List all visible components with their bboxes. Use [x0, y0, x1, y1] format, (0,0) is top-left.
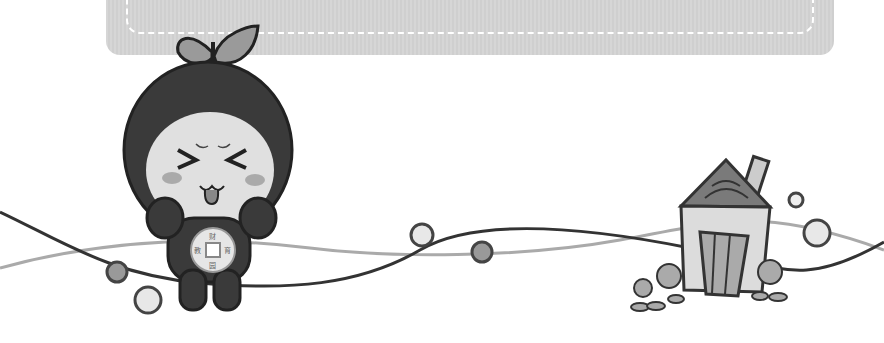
dot-circle	[411, 224, 433, 246]
dot-circle	[135, 287, 161, 313]
mascot: 财 教 育 园	[124, 26, 292, 310]
svg-text:财: 财	[209, 232, 216, 241]
dot-circle	[472, 242, 492, 262]
leaf-left-icon	[178, 38, 212, 63]
illustration: 财 教 育 园	[0, 0, 884, 343]
leaf-right-icon	[214, 26, 258, 63]
dot-circle	[804, 220, 830, 246]
svg-text:育: 育	[224, 246, 231, 255]
dot-circle	[789, 193, 803, 207]
svg-text:园: 园	[209, 262, 216, 270]
dot-circle	[107, 262, 127, 282]
house-door	[700, 232, 748, 296]
svg-text:教: 教	[194, 246, 201, 255]
